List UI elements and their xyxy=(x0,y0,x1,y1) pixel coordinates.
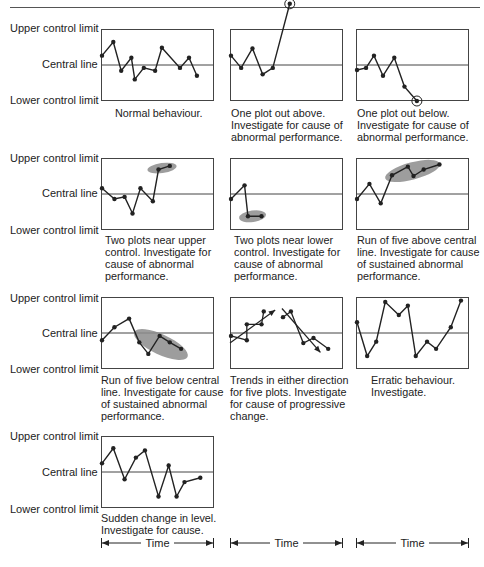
caption-line: line. Investigate for cause xyxy=(357,246,479,258)
data-point xyxy=(406,303,410,307)
data-point xyxy=(168,340,172,344)
data-point xyxy=(122,477,126,481)
data-point xyxy=(397,313,401,317)
data-point xyxy=(425,339,429,343)
caption-trends: Trends in either directionfor five plots… xyxy=(230,374,348,422)
chart-one-plot-out-below xyxy=(356,29,469,101)
data-point xyxy=(355,68,359,72)
caption-line: Investigate for cause of xyxy=(231,119,343,131)
data-point xyxy=(414,354,418,358)
data-point xyxy=(156,167,160,171)
data-point xyxy=(111,446,115,450)
caption-line: line. Investigate for cause xyxy=(101,386,223,398)
caption-line: abnormal performance. xyxy=(231,131,343,143)
caption-line: of sustained abnormal xyxy=(101,398,223,410)
chart-two-plots-near-upper xyxy=(101,158,214,230)
control-chart-svg xyxy=(230,158,343,230)
control-chart-svg xyxy=(356,29,469,101)
data-point xyxy=(229,334,233,338)
data-point xyxy=(402,84,406,88)
time-axis-label: Time xyxy=(396,537,428,549)
data-point xyxy=(100,53,104,57)
data-point xyxy=(179,347,183,351)
data-point xyxy=(365,354,369,358)
data-point xyxy=(166,463,170,467)
top-rule xyxy=(10,7,480,8)
control-chart-svg xyxy=(230,29,343,101)
data-point xyxy=(392,56,396,60)
data-point xyxy=(245,322,249,326)
data-point xyxy=(134,455,138,459)
caption-line: Run of five below central xyxy=(101,374,223,386)
caption-line: performance. xyxy=(101,410,223,422)
chart-one-plot-out-above xyxy=(230,29,343,101)
data-point xyxy=(100,338,104,342)
data-point xyxy=(364,66,368,70)
data-point xyxy=(372,53,376,57)
control-chart-svg xyxy=(101,158,214,230)
data-point xyxy=(143,448,147,452)
caption-one-plot-out-below: One plot out below.Investigate for cause… xyxy=(357,107,469,143)
time-axis-1: Time xyxy=(101,536,214,550)
data-point xyxy=(260,72,264,76)
caption-line: of sustained abnormal xyxy=(357,258,479,270)
data-point xyxy=(229,53,233,57)
data-point xyxy=(289,309,293,313)
caption-line: Investigate for cause. xyxy=(101,524,216,536)
data-point xyxy=(374,339,378,343)
data-point xyxy=(160,46,164,50)
data-point xyxy=(111,40,115,44)
data-point xyxy=(129,56,133,60)
lower-control-limit-label-row3: Lower control limit xyxy=(10,363,99,375)
control-chart-svg xyxy=(356,297,469,369)
data-point xyxy=(138,186,142,190)
caption-line: Erratic behaviour. xyxy=(371,374,455,386)
chart-trends xyxy=(230,297,343,369)
data-point xyxy=(421,167,425,171)
chart-two-plots-near-lower xyxy=(230,158,343,230)
data-point xyxy=(119,69,123,73)
caption-line: performance. xyxy=(234,270,340,282)
data-point xyxy=(112,197,116,201)
caption-normal-behaviour: Normal behaviour. xyxy=(115,107,203,119)
time-axis-2: Time xyxy=(230,536,343,550)
time-axis-label: Time xyxy=(270,537,302,549)
lower-control-limit-label-row2: Lower control limit xyxy=(10,224,99,236)
caption-line: One plot out below. xyxy=(357,107,469,119)
caption-line: cause of abnormal xyxy=(234,258,340,270)
caption-run-five-below: Run of five below centralline. Investiga… xyxy=(101,374,223,422)
data-point xyxy=(449,325,453,329)
data-point xyxy=(146,352,150,356)
data-point xyxy=(130,211,134,215)
data-point xyxy=(133,77,137,81)
data-point xyxy=(411,174,415,178)
caption-line: Investigate. xyxy=(371,386,455,398)
control-chart-svg xyxy=(101,297,214,369)
chart-normal-behaviour xyxy=(101,29,214,101)
upper-control-limit-label-row3: Upper control limit xyxy=(10,292,99,304)
upper-control-limit-label-row4: Upper control limit xyxy=(10,430,99,442)
caption-line: control. Investigate for xyxy=(105,246,211,258)
caption-line: Run of five above central xyxy=(357,234,479,246)
control-chart-svg xyxy=(230,297,343,369)
caption-erratic-behaviour: Erratic behaviour.Investigate. xyxy=(371,374,455,398)
data-point xyxy=(229,197,233,201)
caption-line: Trends in either direction xyxy=(230,374,348,386)
data-point xyxy=(195,74,199,78)
central-line-label-row1: Central line xyxy=(42,58,98,70)
data-point xyxy=(459,298,463,302)
data-point xyxy=(137,340,141,344)
caption-line: for cause of progressive xyxy=(230,398,348,410)
data-point xyxy=(259,322,263,326)
caption-line: Investigate for cause of xyxy=(357,119,469,131)
data-point xyxy=(250,46,254,50)
data-point xyxy=(112,325,116,329)
data-point xyxy=(281,315,285,319)
data-point xyxy=(157,334,161,338)
caption-line: control. Investigate for xyxy=(234,246,340,258)
data-point xyxy=(311,336,315,340)
data-point xyxy=(142,66,146,70)
caption-run-five-above: Run of five above centralline. Investiga… xyxy=(357,234,479,282)
data-point xyxy=(383,300,387,304)
data-point xyxy=(127,316,131,320)
